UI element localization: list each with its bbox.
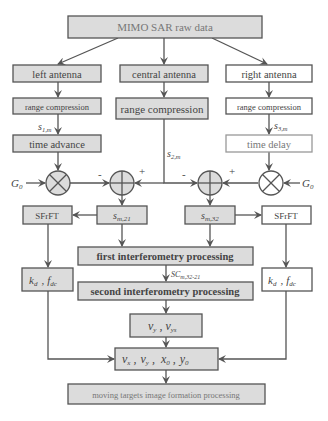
sfrft-right-label: SFrFT [274, 211, 298, 221]
s1m-label: s1,m [38, 121, 52, 133]
central-antenna-label: central antenna [132, 69, 196, 80]
g0-left-label: G0 [11, 177, 23, 191]
minus-left-label: - [98, 168, 102, 180]
second-interferometry-label: second interferometry processing [91, 286, 241, 297]
sfrft-left-label: SFrFT [35, 211, 59, 221]
minus-right-label: - [182, 168, 186, 180]
plus-left-label: + [139, 165, 145, 177]
flowchart: MIMO SAR raw data left antenna central a… [0, 0, 328, 421]
sum-left-icon [110, 171, 134, 195]
arrow-raw-right [212, 38, 267, 64]
multiplier-right-icon [259, 171, 283, 195]
sum-right-icon [198, 171, 222, 195]
raw-data-label: MIMO SAR raw data [117, 21, 213, 33]
s2m-label: s2,m [167, 148, 181, 160]
time-advance-label: time advance [29, 139, 85, 150]
g0-right-label: G0 [302, 177, 314, 191]
s3m-label: s3,m [274, 120, 288, 132]
left-antenna-label: left antenna [32, 69, 82, 80]
plus-right-label: + [229, 165, 235, 177]
first-interferometry-label: first interferometry processing [96, 251, 234, 262]
final-label: moving targets image formation processin… [92, 390, 240, 400]
arrow-raw-left [58, 38, 118, 64]
multiplier-left-icon [46, 171, 70, 195]
right-range-label: range compression [237, 102, 302, 112]
time-delay-label: time delay [247, 139, 292, 150]
central-range-label: range compression [121, 103, 204, 115]
right-antenna-label: right antenna [241, 69, 296, 80]
sc-label: SCm,32-21 [171, 270, 200, 280]
left-range-label: range compression [25, 102, 90, 112]
